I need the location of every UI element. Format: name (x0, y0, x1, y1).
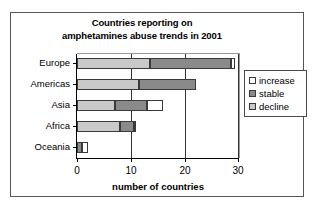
legend-item-decline[interactable]: decline (249, 100, 303, 113)
legend-item-stable[interactable]: stable (249, 87, 303, 100)
x-label-10: 10 (116, 165, 146, 176)
legend-swatch-stable-icon (249, 90, 256, 97)
bar-segment-europe-stable (150, 58, 231, 69)
y-tick-europe (73, 63, 77, 64)
x-tick-0 (77, 158, 78, 162)
bar-segment-africa-increase (134, 121, 137, 132)
y-label-oceania: Oceania (10, 141, 70, 152)
y-tick-asia (73, 105, 77, 106)
bar-segment-africa-stable (120, 121, 134, 132)
plot-area: Europe Americas Asia Africa Oc (76, 54, 239, 159)
gridline-30 (238, 54, 239, 158)
legend-swatch-decline-icon (249, 103, 256, 110)
x-label-30: 30 (223, 165, 253, 176)
y-label-europe: Europe (10, 57, 70, 68)
y-tick-africa (73, 126, 77, 127)
chart-title-line-2: amphetamines abuse trends in 2001 (11, 30, 273, 43)
chart-legend: increase stable decline (244, 70, 307, 117)
bar-segment-europe-decline (77, 58, 150, 69)
bar-segment-asia-increase (147, 100, 163, 111)
bar-segment-americas-decline (77, 79, 139, 90)
chart-title-line-1: Countries reporting on (11, 17, 273, 30)
legend-label-stable: stable (259, 88, 284, 99)
chart-frame: Countries reporting on amphetamines abus… (10, 12, 304, 197)
bar-segment-africa-decline (77, 121, 120, 132)
legend-label-increase: increase (259, 75, 295, 86)
y-tick-oceania (73, 147, 77, 148)
bar-segment-asia-decline (77, 100, 115, 111)
legend-label-decline: decline (259, 101, 289, 112)
x-label-0: 0 (62, 165, 92, 176)
y-label-asia: Asia (10, 99, 70, 110)
x-label-20: 20 (170, 165, 200, 176)
plot-right-border (239, 53, 240, 158)
bar-segment-americas-stable (139, 79, 196, 90)
chart-title: Countries reporting on amphetamines abus… (11, 17, 273, 42)
bar-segment-europe-increase (231, 58, 235, 69)
bar-segment-oceania-increase (82, 142, 87, 153)
x-tick-30 (238, 158, 239, 162)
plot-top-border (77, 53, 239, 54)
x-tick-10 (131, 158, 132, 162)
gridline-20 (185, 54, 186, 158)
y-tick-americas (73, 84, 77, 85)
y-label-americas: Americas (10, 78, 70, 89)
x-axis-title: number of countries (53, 181, 263, 192)
bar-segment-asia-stable (115, 100, 147, 111)
x-tick-20 (185, 158, 186, 162)
y-label-africa: Africa (10, 120, 70, 131)
legend-swatch-increase-icon (249, 77, 256, 84)
legend-item-increase[interactable]: increase (249, 74, 303, 87)
